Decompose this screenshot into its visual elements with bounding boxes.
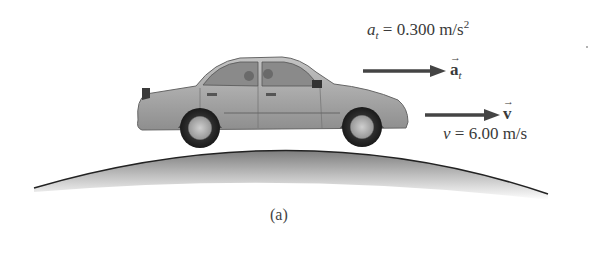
vector-arrow-icon: → — [503, 95, 514, 107]
acceleration-equation: at = 0.300 m/s2 — [367, 18, 469, 41]
acceleration-arrow — [363, 65, 446, 77]
figure-caption: (a) — [270, 206, 288, 224]
acceleration-vector-label: →at — [450, 60, 462, 81]
velocity-vector-label: →v — [503, 104, 512, 124]
accel-value: = 0.300 m/s — [379, 20, 464, 39]
velocity-arrow — [425, 109, 500, 121]
accel-exponent: 2 — [464, 18, 470, 30]
rear-wheel — [180, 108, 220, 148]
vector-arrow-icon: → — [450, 51, 461, 63]
hill — [34, 150, 548, 200]
accel-symbol: a — [367, 20, 376, 39]
velocity-value: = 6.00 m/s — [451, 124, 528, 143]
velocity-symbol: v — [443, 124, 451, 143]
velocity-equation: v = 6.00 m/s — [443, 124, 527, 144]
front-wheel — [342, 107, 382, 147]
